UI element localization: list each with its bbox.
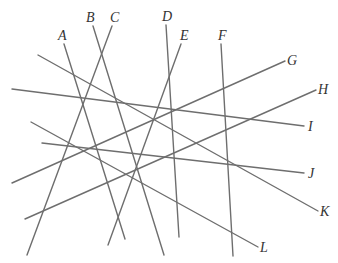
line-label: I (307, 119, 314, 134)
line-label: A (57, 28, 67, 43)
line-segment (93, 26, 164, 255)
line-label: K (319, 204, 330, 219)
line-label: L (259, 240, 268, 255)
line-segment (12, 89, 304, 126)
line-a: A (57, 28, 125, 239)
line-label: F (217, 28, 227, 43)
line-segment (221, 44, 233, 256)
line-c: C (27, 10, 120, 255)
line-label: D (161, 9, 172, 24)
line-diagram: ABCDEFGHIJKL (0, 0, 338, 263)
line-label: E (179, 28, 189, 43)
line-f: F (217, 28, 233, 256)
line-label: J (308, 166, 315, 181)
diagram-svg: ABCDEFGHIJKL (0, 0, 338, 263)
line-segment (38, 55, 318, 211)
line-label: B (86, 10, 95, 25)
line-label: G (287, 53, 297, 68)
line-j: J (42, 143, 315, 181)
line-label: H (317, 82, 329, 97)
line-segment (31, 122, 258, 247)
line-segment (108, 44, 181, 245)
line-label: C (110, 10, 120, 25)
